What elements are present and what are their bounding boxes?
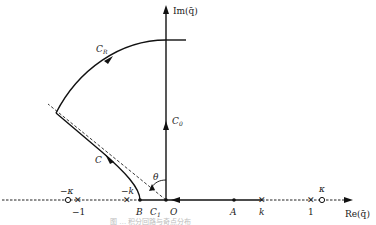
point-B [138,198,142,202]
cross-minus-1: ✕ [74,195,82,205]
label-k: k [259,207,264,217]
label-1: 1 [308,207,314,217]
label-C0: C0 [172,116,183,127]
contour-C0-arrow-icon [163,121,169,130]
label-C1: C1 [150,207,161,218]
real-axis-arrow-icon [344,197,353,203]
figure-caption: 图 … 积分回路与奇点分布 [110,217,191,225]
label-minus-1: −1 [72,207,85,217]
contour-diagram: ✕ ✕ ✕ ✕ Im(q̄) Re(q̄) O CR C0 C1 C θ −κ … [0,0,376,225]
cross-1: ✕ [307,195,315,205]
contour-C1-arrow-icon [171,197,180,203]
label-minus-k: −k [121,186,134,196]
point-O [164,198,168,202]
label-im-axis: Im(q̄) [173,6,198,16]
label-minus-kappa: −κ [60,186,74,196]
label-theta: θ [153,172,159,182]
theta-arrow-icon [149,184,155,191]
label-origin: O [170,207,178,217]
label-kappa: κ [318,184,325,194]
label-C: C [95,155,102,165]
contour-CR-arc [56,40,166,113]
label-A: A [229,207,237,217]
contour-CR-arrow-icon [104,56,113,64]
contour-C-arrow-icon [105,154,114,164]
point-kappa [319,197,324,202]
imag-axis-arrow-icon [163,5,169,14]
cross-minus-k: ✕ [123,195,131,205]
cross-k: ✕ [258,195,266,205]
label-B: B [135,207,143,217]
label-CR: CR [96,44,108,55]
label-re-axis: Re(q̄) [345,209,370,219]
point-A [232,198,236,202]
point-minus-kappa [65,197,70,202]
